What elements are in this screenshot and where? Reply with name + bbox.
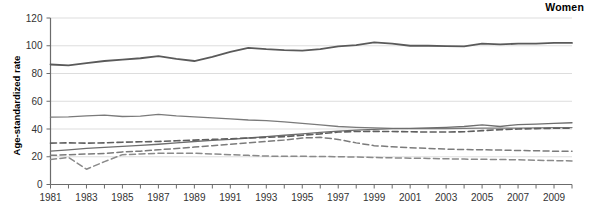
x-tick-labels-group: 1981198319851987198919911993199519971999…	[39, 192, 565, 203]
x-tick-label: 1985	[111, 192, 134, 203]
x-tick-label: 1997	[327, 192, 350, 203]
x-tick-label: 1989	[183, 192, 206, 203]
y-tick-label: 80	[31, 68, 43, 79]
y-tick-label: 100	[26, 40, 43, 51]
line-chart-plot: 020406080100120 198119831985198719891991…	[0, 0, 592, 209]
x-tick-marks-group	[51, 185, 573, 189]
x-tick-label: 2007	[507, 192, 530, 203]
y-tick-label: 0	[37, 179, 43, 190]
x-tick-label: 1987	[147, 192, 170, 203]
x-tick-label: 1991	[219, 192, 242, 203]
chart-figure: Age-standardized rate Women 020406080100…	[0, 0, 592, 209]
x-tick-label: 2001	[399, 192, 422, 203]
x-tick-label: 1983	[75, 192, 98, 203]
x-tick-label: 2003	[435, 192, 458, 203]
series-line-series-4-dashed-upper	[51, 128, 573, 143]
x-tick-label: 1995	[291, 192, 314, 203]
y-tick-label: 40	[31, 124, 43, 135]
x-tick-label: 1999	[363, 192, 386, 203]
y-tick-labels-group: 020406080100120	[26, 13, 43, 191]
x-tick-label: 2005	[471, 192, 494, 203]
x-tick-label: 2009	[543, 192, 566, 203]
x-tick-label: 1981	[39, 192, 62, 203]
series-line-series-6-dashed-lower	[51, 153, 573, 169]
y-tick-label: 60	[31, 96, 43, 107]
series-group	[51, 42, 573, 169]
series-line-series-2-solid-declining	[51, 114, 573, 128]
y-tick-label: 20	[31, 151, 43, 162]
x-tick-label: 1993	[255, 192, 278, 203]
y-tick-label: 120	[26, 13, 43, 24]
